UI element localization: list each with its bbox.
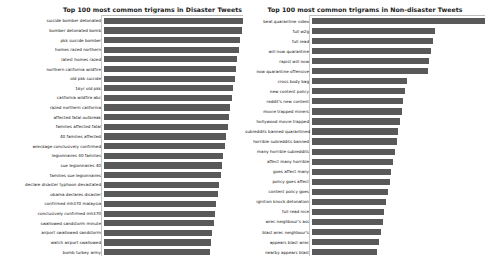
bar-track bbox=[312, 86, 486, 96]
bar-track bbox=[104, 238, 244, 248]
bar-row: confirmed mh370 malaysia bbox=[0, 199, 243, 209]
bar-row: new content policy bbox=[245, 86, 485, 96]
bar-track bbox=[312, 187, 486, 197]
bar-category-label: now quarantine offensive bbox=[245, 69, 312, 74]
bar-track bbox=[104, 151, 244, 161]
bar-track bbox=[104, 93, 244, 103]
bar-track bbox=[312, 16, 486, 26]
bar-category-label: 40 families affected bbox=[0, 134, 104, 139]
bar-category-label: conclusively confirmed mh370 bbox=[0, 211, 104, 216]
bar-track bbox=[104, 180, 244, 190]
bar bbox=[312, 249, 378, 255]
bar-track bbox=[104, 122, 244, 132]
bar-row: movie trapped miners bbox=[245, 106, 485, 116]
bar-track bbox=[312, 237, 486, 247]
bar bbox=[104, 249, 210, 255]
bar-row: blast wrec neighbour's bbox=[245, 227, 485, 237]
bar-track bbox=[104, 74, 244, 84]
bar bbox=[312, 28, 435, 34]
bar-category-label: nearby appears blast bbox=[245, 250, 312, 255]
bar bbox=[104, 27, 242, 33]
bar-category-label: appears blast wrec bbox=[245, 240, 312, 245]
bar bbox=[104, 85, 234, 91]
bar bbox=[104, 104, 231, 110]
bar-category-label: full read bbox=[245, 39, 312, 44]
bar-track bbox=[312, 26, 486, 36]
bar-row: policy goes affect bbox=[245, 177, 485, 187]
bar-row: appears blast wrec bbox=[245, 237, 485, 247]
bar-category-label: sue legionnaires 40 bbox=[0, 163, 104, 168]
bar-track bbox=[104, 247, 244, 257]
bar-track bbox=[312, 207, 486, 217]
bar-row: homes razed northern bbox=[0, 45, 243, 55]
bar-category-label: pkk suicide bomber bbox=[0, 38, 104, 43]
bar-category-label: wrec neighbour's ass bbox=[245, 219, 312, 224]
bar bbox=[312, 68, 428, 74]
bar-track bbox=[312, 177, 486, 187]
bar-track bbox=[312, 127, 486, 137]
bar-track bbox=[312, 116, 486, 126]
bar-category-label: goes affect many bbox=[245, 169, 312, 174]
bar-category-label: confirmed mh370 malaysia bbox=[0, 201, 104, 206]
bar bbox=[104, 230, 213, 236]
bar-category-label: affected fatal outbreak bbox=[0, 115, 104, 120]
bar-row: watch airport swallowed bbox=[0, 238, 243, 248]
bar bbox=[104, 47, 239, 53]
bar-track bbox=[104, 35, 244, 45]
bar-track bbox=[312, 247, 486, 257]
bar-category-label: beat quarantine video bbox=[245, 19, 312, 24]
bar bbox=[104, 220, 214, 226]
bar-category-label: homes razed northern bbox=[0, 47, 104, 52]
bar-row: beat quarantine video bbox=[245, 16, 485, 26]
bar bbox=[312, 179, 390, 185]
bar-row: will now quarantine bbox=[245, 46, 485, 56]
bar-row: full read nice bbox=[245, 207, 485, 217]
bar-category-label: reddit's new content bbox=[245, 99, 312, 104]
bar-category-label: bomber detonated bomb bbox=[0, 28, 104, 33]
bar-row: subreddits banned quarantined bbox=[245, 127, 485, 137]
bar-category-label: many horrible subreddits bbox=[245, 149, 312, 154]
bar bbox=[312, 159, 394, 165]
bar-category-label: declare disaster typhoon devastated bbox=[0, 182, 104, 187]
bar bbox=[312, 58, 430, 64]
bar bbox=[312, 88, 406, 94]
bar bbox=[312, 169, 392, 175]
bar-category-label: families affected fatal bbox=[0, 124, 104, 129]
bar bbox=[104, 37, 241, 43]
bar-row: northern california wildfire bbox=[0, 64, 243, 74]
bar-row: sue legionnaires 40 bbox=[0, 161, 243, 171]
bar bbox=[312, 98, 404, 104]
bar-row: families affected fatal bbox=[0, 122, 243, 132]
bar-track bbox=[312, 106, 486, 116]
bar bbox=[104, 182, 220, 188]
bar-row: hollywood movie trapped bbox=[245, 116, 485, 126]
bar-track bbox=[104, 55, 244, 65]
bar-row: full read bbox=[245, 36, 485, 46]
bar bbox=[312, 219, 383, 225]
bar bbox=[312, 199, 387, 205]
bar-row: legionnaires 40 families bbox=[0, 151, 243, 161]
bar-row: goes affect many bbox=[245, 167, 485, 177]
bar-row: old pkk suicide bbox=[0, 74, 243, 84]
bar-row: families sue legionnaires bbox=[0, 170, 243, 180]
bar-category-label: northern california wildfire bbox=[0, 67, 104, 72]
bar-category-label: movie trapped miners bbox=[245, 109, 312, 114]
bar-row: ignition knock detonation bbox=[245, 197, 485, 207]
bar-category-label: bomb turkey army bbox=[0, 250, 104, 255]
bar-track bbox=[104, 132, 244, 142]
bar-row: now quarantine offensive bbox=[245, 66, 485, 76]
bar-category-label: blast wrec neighbour's bbox=[245, 230, 312, 235]
bar-track bbox=[104, 228, 244, 238]
bar-track bbox=[104, 83, 244, 93]
chart-title-disaster: Top 100 most common trigrams in Disaster… bbox=[60, 6, 245, 14]
bar-category-label: full w2g bbox=[245, 29, 312, 34]
bar-track bbox=[104, 16, 244, 26]
bar-track bbox=[104, 170, 244, 180]
bar-track bbox=[104, 26, 244, 36]
bar bbox=[104, 66, 237, 72]
bar bbox=[104, 191, 218, 197]
bar bbox=[104, 239, 211, 245]
bar-category-label: policy goes affect bbox=[245, 179, 312, 184]
bar bbox=[312, 118, 400, 124]
bar-category-label: obama declares disaster bbox=[0, 192, 104, 197]
